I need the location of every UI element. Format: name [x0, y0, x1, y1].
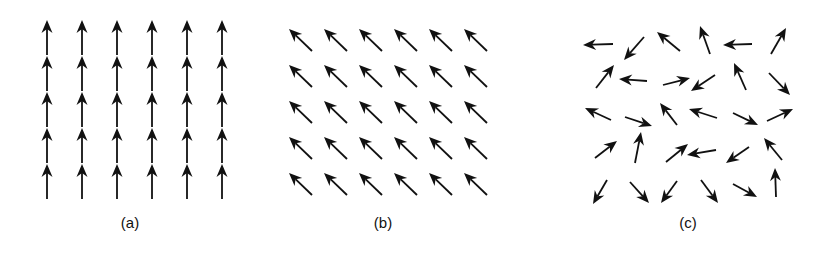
- arrow-shaft: [331, 71, 347, 87]
- arrow-head-icon: [660, 103, 672, 117]
- arrow-shaft: [733, 184, 749, 193]
- arrow-shaft: [663, 80, 681, 85]
- arrow-shaft: [436, 35, 452, 51]
- arrow-head-icon: [593, 190, 604, 204]
- panel-b-label: (b): [374, 214, 392, 231]
- arrow-shaft: [738, 71, 746, 90]
- arrow-shaft: [733, 147, 749, 158]
- arrow-shaft: [401, 143, 417, 159]
- arrow-shaft: [366, 179, 382, 195]
- arrow-shaft: [598, 180, 607, 196]
- arrow-head-icon: [775, 28, 786, 42]
- arrow-head-icon: [764, 138, 777, 152]
- arrow-shaft: [770, 145, 782, 160]
- arrow-shaft: [471, 143, 487, 159]
- arrow-shaft: [630, 182, 643, 196]
- arrow-shaft: [331, 179, 347, 195]
- arrow-shaft: [595, 147, 610, 158]
- arrow-head-icon: [603, 141, 617, 153]
- arrow-shaft: [471, 35, 487, 51]
- arrow-shaft: [296, 107, 312, 123]
- arrow-shaft: [767, 113, 785, 121]
- arrow-shaft: [436, 143, 452, 159]
- arrow-head-icon: [675, 144, 689, 157]
- arrow-shaft: [666, 150, 681, 162]
- arrow-shaft: [769, 73, 784, 88]
- arrow-head-icon: [706, 189, 718, 203]
- arrow-shaft: [666, 110, 677, 125]
- arrow-shaft: [401, 107, 417, 123]
- arrow-shaft: [771, 36, 782, 54]
- arrow-shaft: [775, 177, 776, 197]
- arrow-shaft: [436, 107, 452, 123]
- arrow-head-icon: [602, 65, 614, 79]
- arrow-shaft: [732, 44, 752, 45]
- panel-b-aligned-diagonal-arrows: [289, 29, 487, 195]
- arrow-shaft: [703, 34, 710, 54]
- arrow-shaft: [366, 71, 382, 87]
- arrow-shaft: [401, 179, 417, 195]
- arrow-shaft: [593, 112, 611, 120]
- arrow-shaft: [401, 35, 417, 51]
- arrow-head-icon: [661, 189, 673, 203]
- arrow-shaft: [331, 35, 347, 51]
- arrow-shaft: [701, 180, 713, 196]
- arrow-shaft: [698, 75, 715, 86]
- arrow-shaft: [296, 71, 312, 87]
- panel-a-aligned-vertical-arrows: [42, 20, 228, 199]
- arrow-shaft: [366, 143, 382, 159]
- arrow-shaft: [592, 44, 613, 45]
- arrow-shaft: [331, 107, 347, 123]
- arrow-shaft: [436, 179, 452, 195]
- arrow-shaft: [733, 113, 750, 121]
- panel-a-label: (a): [121, 214, 139, 231]
- arrow-shaft: [596, 72, 608, 88]
- arrow-shaft: [635, 141, 639, 163]
- arrow-shaft: [331, 143, 347, 159]
- arrow-shaft: [296, 143, 312, 159]
- arrow-shaft: [471, 179, 487, 195]
- arrow-shaft: [296, 179, 312, 195]
- panel-c-label: (c): [679, 214, 697, 231]
- arrow-shaft: [471, 71, 487, 87]
- arrow-shaft: [436, 71, 452, 87]
- arrow-shaft: [666, 181, 677, 196]
- arrow-head-icon: [726, 151, 740, 163]
- arrow-shaft: [698, 112, 717, 118]
- arrow-shaft: [366, 35, 382, 51]
- arrow-shaft: [696, 150, 716, 153]
- arrow-shaft: [630, 37, 644, 53]
- panel-c-random-arrows: [583, 26, 793, 204]
- arrow-shaft: [401, 71, 417, 87]
- arrow-shaft: [664, 38, 680, 51]
- arrow-shaft: [471, 107, 487, 123]
- arrow-shaft: [628, 80, 647, 81]
- arrow-head-icon: [691, 79, 705, 91]
- arrow-shaft: [296, 35, 312, 51]
- arrow-shaft: [625, 117, 643, 123]
- arrow-shaft: [366, 107, 382, 123]
